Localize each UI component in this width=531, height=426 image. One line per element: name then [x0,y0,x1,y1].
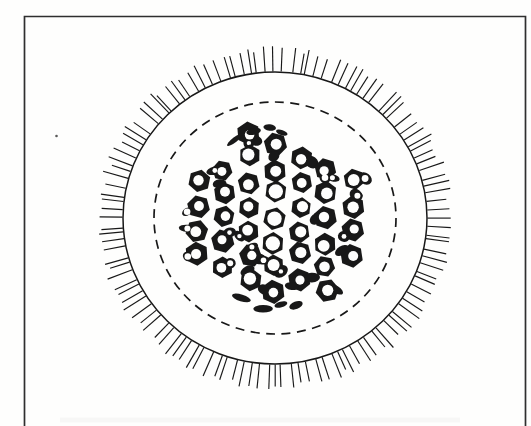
tube-lumen [244,272,256,284]
tube-lumen [247,141,251,145]
tube-lumen [269,184,283,198]
tube-lumen [350,224,359,233]
tube-lumen [330,175,335,180]
page-bleedthrough-smudge [60,418,460,423]
tube-lumen [347,202,358,213]
tube-lumen [242,149,254,161]
tube-lumen [184,208,191,215]
tube-lumen [218,235,227,244]
tube-lumen [295,247,306,258]
tube-lumen [320,166,329,175]
tube-lumen [279,269,283,273]
diagram-canvas [0,0,531,426]
tube-lumen [319,212,329,222]
tube-lumen [194,201,204,211]
tube-lumen [266,236,280,250]
tube-lumen [295,276,304,285]
tube-lumen [295,226,306,237]
tube-lumen [212,168,217,173]
tube-lumen [220,187,230,197]
scanned-figure-page [0,0,531,426]
tube-lumen [270,166,281,177]
tube-lumen [227,260,233,266]
tube-lumen [322,175,329,182]
tube-lumen [261,257,267,263]
tube-lumen [348,251,358,261]
tube-lumen [267,212,281,226]
tube-lumen [296,154,306,164]
tube-lumen [321,188,333,200]
tube-lumen [184,225,190,231]
tube-lumen [191,249,201,259]
tube-lumen [190,226,201,237]
tube-lumen [227,230,232,235]
tube-lumen [242,225,253,236]
tube-lumen [249,245,254,250]
tube-lumen [247,251,256,260]
ink-speck [55,135,58,138]
tube-lumen [271,139,282,150]
tube-lumen [319,261,330,272]
tick-mark [280,364,281,387]
tube-lumen [268,259,280,271]
tube-lumen [342,234,347,239]
tube-lumen [297,178,307,188]
tube-lumen [362,175,369,182]
tube-lumen [318,240,330,252]
tube-lumen [243,179,254,190]
tube-lumen [217,167,226,176]
tube-lumen [185,253,192,260]
tube-lumen [217,263,227,273]
tube-lumen [237,234,241,238]
tube-lumen [243,201,253,211]
tube-lumen [193,175,203,185]
tube-lumen [297,201,308,212]
tube-lumen [221,211,231,221]
tube-lumen [354,193,360,199]
tube-lumen [348,174,360,186]
tube-lumen [322,285,333,296]
tube-lumen [269,288,279,298]
